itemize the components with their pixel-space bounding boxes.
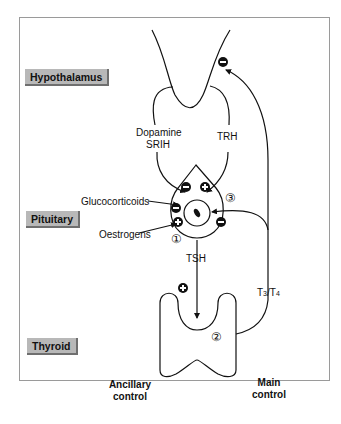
text-srih: SRIH [146, 139, 170, 151]
plus-icon-oestrogens [173, 217, 183, 227]
t4-sub: 4 [276, 290, 280, 297]
label-pituitary: Pituitary [26, 211, 80, 228]
minus-icon-glucocorticoids [171, 203, 181, 213]
label-thyroid: Thyroid [27, 338, 78, 355]
pituitary-shape [171, 165, 224, 238]
text-trh: TRH [217, 131, 238, 143]
ancillary-line2: control [100, 391, 160, 403]
plus-icon-tsh [178, 283, 188, 293]
text-tsh: TSH [186, 253, 206, 265]
text-t3-t4: T3/T4 [257, 287, 280, 300]
thyroid-shape [160, 293, 236, 376]
marker-3: ③ [225, 192, 236, 204]
dopamine-path [153, 87, 173, 125]
marker-2: ② [211, 331, 222, 343]
trh-path [210, 86, 229, 125]
label-hypothalamus: Hypothalamus [25, 69, 109, 86]
hypothalamus-shape [152, 30, 230, 108]
text-dopamine: Dopamine [136, 127, 182, 139]
text-glucocorticoids: Glucocorticoids [81, 196, 149, 208]
plus-icon-pit-top [200, 182, 210, 192]
nucleolus-icon [193, 208, 202, 218]
text-oestrogens: Oestrogens [99, 229, 151, 241]
text-main-control: Main control [244, 377, 294, 401]
minus-icon-nucleus [216, 217, 226, 227]
ancillary-line1: Ancillary [100, 379, 160, 391]
minus-icon-pit-top [181, 182, 191, 192]
marker-1: ① [171, 233, 182, 245]
text-ancillary-control: Ancillary control [100, 379, 160, 403]
main-line2: control [244, 389, 294, 401]
minus-icon-hypothalamus [218, 57, 228, 67]
main-line1: Main [244, 377, 294, 389]
